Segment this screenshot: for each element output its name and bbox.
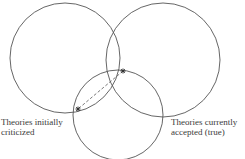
label-line: criticized: [1, 127, 63, 137]
label-line: accepted (true): [171, 127, 237, 137]
label-line: Theories currently: [171, 117, 237, 127]
label-theories-currently-accepted: Theories currently accepted (true): [171, 117, 237, 137]
label-line: Theories initially: [1, 117, 63, 127]
star-marker-upper: [121, 69, 126, 74]
circle-theories-currently-accepted: [106, 3, 220, 117]
circle-theories-initially-criticized: [10, 3, 120, 113]
label-theories-initially-criticized: Theories initially criticized: [1, 117, 63, 137]
circle-bottom: [73, 70, 163, 159]
star-marker-lower: [76, 107, 81, 112]
